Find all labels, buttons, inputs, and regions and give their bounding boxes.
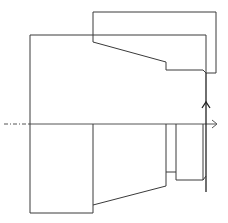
lower-profile: [93, 124, 206, 205]
drawing-canvas: [0, 0, 228, 223]
upper-tool-outline: [93, 12, 216, 73]
center-axis: [4, 120, 217, 128]
